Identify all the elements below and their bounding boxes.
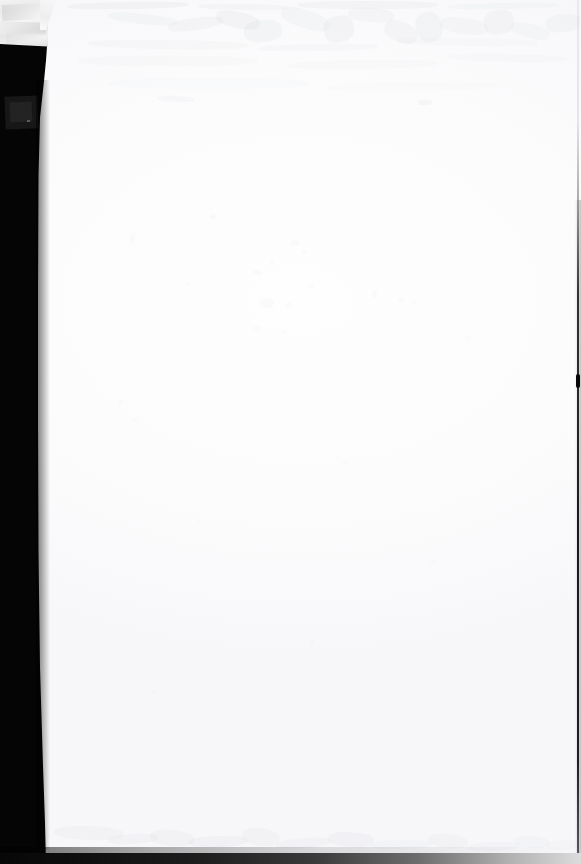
lid-patch-texture-1 <box>2 3 45 21</box>
right-page-edge-line <box>577 0 579 864</box>
page-paper-surface <box>0 0 581 864</box>
scanned-document-page <box>0 0 581 864</box>
lid-patch-texture-3 <box>6 33 46 44</box>
left-scan-shadow-speck <box>27 120 30 122</box>
bottom-scan-shadow <box>0 853 581 864</box>
right-edge-artifact <box>576 374 580 388</box>
